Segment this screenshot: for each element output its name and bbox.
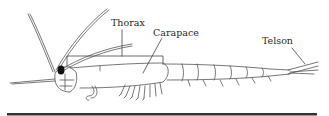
bottom-rule (7, 113, 317, 116)
label-telson: Telson (262, 35, 293, 46)
label-carapace: Carapace (153, 27, 199, 38)
telson (288, 62, 318, 74)
telson-leader (292, 48, 305, 64)
antenna-long-4 (58, 10, 109, 71)
carapace (70, 63, 168, 88)
antenna-long-1 (28, 14, 53, 72)
abdomen (163, 64, 290, 80)
label-thorax: Thorax (111, 17, 145, 28)
antenna-long-2 (30, 14, 55, 72)
eye (58, 66, 65, 75)
carapace-leader (143, 38, 162, 73)
crustacean-illustration: Thorax Carapace Telson (0, 0, 329, 116)
anatomy-diagram: Thorax Carapace Telson (0, 0, 329, 116)
